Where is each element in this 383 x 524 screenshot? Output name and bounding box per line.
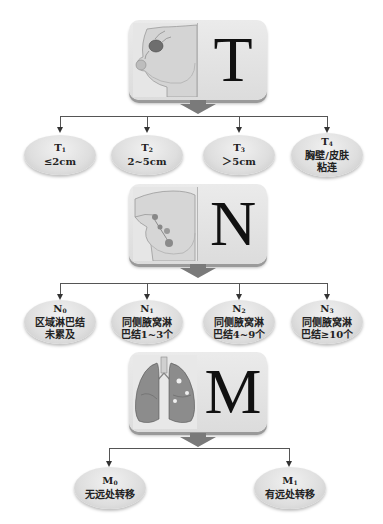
node-m0: M0 无远处转移 (74, 467, 146, 509)
m-connector-line (109, 448, 290, 449)
n-stage-card: N (129, 184, 267, 264)
node-m1: M1 有远处转移 (254, 467, 326, 509)
down-arrow-icon (178, 433, 218, 447)
node-code: N0 (53, 303, 66, 317)
breast-tumor-illustration (133, 23, 198, 97)
t-stage-card: T (129, 20, 267, 100)
node-desc: 未累及 (45, 329, 75, 341)
lungs-illustration (133, 355, 197, 429)
node-desc: 有远处转移 (265, 489, 315, 501)
node-desc: 巴结1~3个 (121, 329, 173, 341)
node-code: N3 (320, 303, 333, 317)
node-desc: 同侧腋窝淋 (122, 317, 172, 329)
node-desc: 区域淋巴结 (35, 317, 85, 329)
node-code: N1 (140, 303, 153, 317)
node-t2: T2 2~5cm (111, 135, 183, 175)
node-n0: N0 区域淋巴结 未累及 (24, 300, 96, 344)
arrowhead-icon (57, 127, 63, 133)
node-n3: N3 同侧腋窝淋 巴结≥10个 (291, 300, 363, 344)
node-desc: 粘连 (317, 162, 337, 174)
m-stage-letter: M (199, 352, 267, 432)
t-stage-letter: T (199, 20, 267, 100)
m0-connector (109, 448, 110, 462)
node-desc: 巴结4~9个 (213, 329, 265, 341)
node-desc: 2~5cm (128, 156, 167, 168)
node-desc: 胸壁/皮肤 (305, 150, 349, 162)
t-connector-line (60, 116, 328, 117)
node-code: M0 (102, 475, 117, 489)
down-arrow-icon (178, 100, 218, 114)
axillary-lymph-node-illustration (133, 187, 198, 261)
node-desc: 巴结≥10个 (301, 329, 353, 341)
node-code: N2 (232, 303, 245, 317)
n-connector-line (60, 283, 328, 284)
node-desc: 无远处转移 (85, 489, 135, 501)
node-desc: 同侧腋窝淋 (214, 317, 264, 329)
m1-connector (289, 448, 290, 462)
node-desc: ＞5cm (222, 156, 256, 168)
node-n1: N1 同侧腋窝淋 巴结1~3个 (111, 300, 183, 344)
arrowhead-icon (144, 127, 150, 133)
node-t3: T3 ＞5cm (203, 135, 275, 175)
node-code: T1 (54, 142, 66, 156)
node-n2: N2 同侧腋窝淋 巴结4~9个 (203, 300, 275, 344)
node-t4: T4 胸壁/皮肤 粘连 (291, 133, 363, 177)
node-code: M1 (282, 475, 297, 489)
node-code: T4 (321, 136, 333, 150)
n-stage-letter: N (199, 184, 267, 264)
node-t1: T1 ≤2cm (24, 135, 96, 175)
node-code: T2 (141, 142, 153, 156)
m-stage-card: M (129, 352, 267, 432)
node-code: T3 (233, 142, 245, 156)
down-arrow-icon (178, 264, 218, 278)
node-desc: 同侧腋窝淋 (302, 317, 352, 329)
arrowhead-icon (236, 127, 242, 133)
node-desc: ≤2cm (44, 156, 76, 168)
